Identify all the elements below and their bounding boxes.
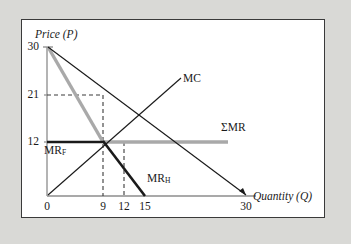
x-axis-title: Quantity (Q) bbox=[253, 190, 312, 202]
curve-label-mr-f: MRF bbox=[44, 144, 66, 156]
x-tick-label-0: 0 bbox=[40, 200, 54, 212]
y-tick-label-21: 21 bbox=[21, 88, 39, 100]
curve-label-mr-h-sub: H bbox=[165, 176, 170, 185]
x-tick-label-15: 15 bbox=[136, 200, 154, 212]
figure-root: Price (P) Quantity (Q) 30 21 12 0 9 12 1… bbox=[0, 0, 351, 244]
curve-label-mr-f-sub: F bbox=[62, 148, 66, 157]
y-tick-label-30: 30 bbox=[21, 40, 39, 52]
x-tick-label-9: 9 bbox=[96, 200, 110, 212]
x-tick-label-12: 12 bbox=[114, 200, 134, 212]
curve-label-mr-h-base: MR bbox=[147, 172, 165, 184]
curve-label-sigma-mr: ΣMR bbox=[221, 121, 246, 133]
y-tick-label-12: 12 bbox=[21, 135, 39, 147]
plot-panel bbox=[21, 19, 325, 218]
x-tick-label-30: 30 bbox=[237, 200, 255, 212]
curve-label-mr-h: MRH bbox=[147, 172, 170, 184]
curve-label-mr-f-base: MR bbox=[44, 144, 62, 156]
curve-label-mc: MC bbox=[183, 72, 201, 84]
y-axis-title: Price (P) bbox=[35, 28, 77, 40]
